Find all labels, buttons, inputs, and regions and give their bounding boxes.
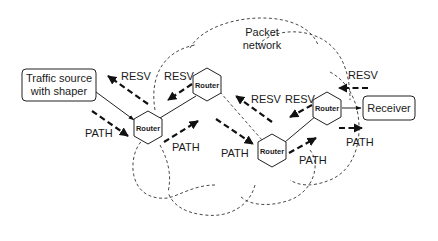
traffic-source-node: Traffic source with shaper — [22, 69, 96, 101]
router-3-label: Router — [260, 147, 284, 156]
path-label-3: PATH — [221, 147, 249, 159]
cloud-label-line2: network — [243, 39, 282, 51]
router-2: Router — [193, 68, 221, 101]
resv-label-3: RESV — [251, 93, 282, 105]
path-label-4: PATH — [299, 154, 327, 166]
link-router1-router2 — [160, 96, 196, 118]
link-source-router1 — [96, 92, 134, 120]
resv-label-1: RESV — [121, 70, 152, 82]
resv-label-5: RESV — [348, 69, 379, 81]
receiver-node: Receiver — [363, 96, 415, 120]
link-router3-router4 — [285, 116, 316, 142]
router-3: Router — [258, 134, 286, 167]
router-4: Router — [313, 92, 341, 125]
path-label-5: PATH — [346, 136, 374, 148]
source-label-line1: Traffic source — [26, 72, 92, 84]
source-label-line2: with shaper — [30, 85, 88, 97]
path-label-2: PATH — [172, 141, 200, 153]
router-4-label: Router — [315, 104, 339, 113]
resv-arrow-4 — [290, 105, 312, 117]
resv-label-4: RESV — [285, 93, 316, 105]
cloud-label-line1: Packet — [245, 26, 279, 38]
path-label-1: PATH — [85, 127, 113, 139]
path-arrow-4 — [289, 138, 316, 153]
router-1: Router — [134, 111, 162, 144]
receiver-label: Receiver — [367, 102, 411, 114]
resv-label-2: RESV — [164, 70, 195, 82]
rsvp-diagram: Traffic source with shaper Receiver Rout… — [0, 0, 438, 241]
resv-arrow-2 — [168, 84, 192, 100]
router-2-label: Router — [195, 81, 219, 90]
router-1-label: Router — [136, 124, 160, 133]
path-arrow-2 — [164, 121, 198, 142]
